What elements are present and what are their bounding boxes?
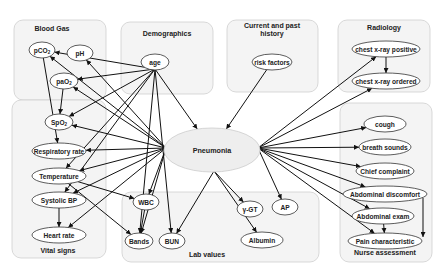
node-label-abdominal-exam: Abdominal exam (357, 213, 410, 220)
pneumonia-label: Pneumonia (193, 146, 233, 155)
node-label-cough: cough (375, 121, 395, 129)
node-label-ap: AP (280, 204, 290, 211)
node-label-age: age (149, 59, 161, 67)
node-label-bun: BUN (165, 238, 180, 245)
node-ph: pH (67, 45, 93, 61)
node-pain-characteristic: Pain characteristic (348, 233, 422, 249)
node-ggt: γ-GT (237, 201, 263, 217)
pneumonia-network-diagram: Blood GasDemographicsCurrent and pasthis… (0, 0, 444, 278)
node-label-ggt: γ-GT (242, 206, 257, 214)
node-age: age (141, 54, 169, 70)
node-abdominal-exam: Abdominal exam (352, 208, 414, 224)
group-title-lab-values: Lab values (189, 251, 225, 258)
node-cough: cough (364, 116, 406, 132)
node-label-abdominal-discomfort: Abdominal discomfort (350, 191, 421, 198)
node-pao2: paO2 (50, 73, 78, 89)
node-label-albumin: Albumin (249, 237, 275, 244)
group-title-blood-gas: Blood Gas (34, 25, 69, 32)
node-heart-rate: Heart rate (32, 227, 86, 243)
node-breath-sounds: breath sounds (359, 139, 411, 155)
node-albumin: Albumin (241, 232, 283, 248)
node-chief-complaint: Chief complaint (356, 163, 414, 179)
node-spo2: SpO2 (45, 114, 73, 130)
node-bun: BUN (159, 233, 185, 249)
node-temperature: Temperature (32, 168, 86, 184)
group-title-current-past-history: Current and past (244, 22, 301, 30)
node-systolic-bp: Systolic BP (32, 192, 86, 208)
node-label-respiratory-rate: Respiratory rate (34, 148, 85, 156)
group-title-radiology: Radiology (367, 24, 401, 32)
node-ap: AP (272, 199, 298, 215)
node-label-cxr-positive: chest x-ray positive (355, 46, 417, 54)
node-risk-factors: risk factors (252, 54, 292, 70)
node-pco2: pCO2 (29, 42, 55, 58)
node-label-systolic-bp: Systolic BP (41, 197, 78, 205)
node-cxr-positive: chest x-ray positive (352, 41, 420, 57)
node-label-wbc: WBC (138, 199, 154, 206)
node-respiratory-rate: Respiratory rate (32, 143, 86, 159)
node-label-cxr-ordered: chest x-ray ordered (355, 78, 416, 86)
node-label-risk-factors: risk factors (254, 59, 290, 66)
node-label-pain-characteristic: Pain characteristic (356, 238, 415, 245)
node-cxr-ordered: chest x-ray ordered (352, 73, 420, 89)
node-wbc: WBC (133, 194, 159, 210)
node-label-breath-sounds: breath sounds (362, 144, 408, 151)
node-label-chief-complaint: Chief complaint (360, 168, 410, 176)
node-label-ph: pH (76, 50, 85, 58)
node-label-bands: Bands (129, 238, 149, 245)
node-label-temperature: Temperature (39, 173, 79, 181)
node-abdominal-discomfort: Abdominal discomfort (343, 186, 427, 202)
node-label-heart-rate: Heart rate (44, 232, 75, 239)
group-title-demographics: Demographics (143, 30, 192, 38)
node-bands: Bands (125, 233, 153, 249)
center-node: Pneumonia (164, 128, 260, 172)
group-title-line2-current-past-history: history (260, 30, 283, 38)
group-title-nurse-assessment: Nurse assessment (354, 249, 417, 256)
group-title-vital-signs: Vital signs (41, 247, 76, 255)
